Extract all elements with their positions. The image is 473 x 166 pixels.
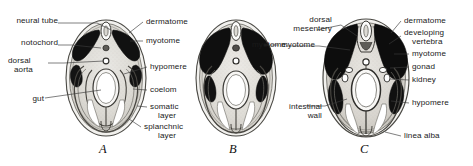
- panel-c-drawing: [323, 19, 409, 137]
- label-somatic-layer-line2: layer: [158, 111, 176, 120]
- panel-letter-a: A: [99, 142, 107, 157]
- label-dermatome-a: dermatome: [146, 17, 188, 26]
- label-kidney: kidney: [412, 75, 436, 84]
- anatomy-figure: neural tube notochord dorsal aorta gut d…: [0, 0, 473, 166]
- label-myotome-c-right: myotome: [412, 49, 446, 58]
- label-developing-vertebra-line2: vertebra: [412, 37, 443, 46]
- label-neural-tube: neural tube: [2, 16, 58, 25]
- label-somatic-layer-line1: somatic: [150, 102, 179, 111]
- label-linea-alba: linea alba: [404, 131, 440, 140]
- label-gut: gut: [2, 94, 44, 103]
- label-gonad: gonad: [412, 62, 435, 71]
- label-dorsal-aorta-line2: aorta: [14, 65, 60, 74]
- label-hypomere-a: hypomere: [150, 62, 187, 71]
- label-splanchnic-layer-line2: layer: [158, 131, 176, 140]
- panel-b-drawing: [196, 20, 276, 136]
- label-hypomere-c: hypomere: [412, 98, 449, 107]
- label-dorsal-aorta-line1: dorsal: [8, 56, 54, 65]
- label-dermatome-c: dermatome: [404, 16, 446, 25]
- panel-a-drawing: [66, 20, 146, 136]
- panel-letter-b: B: [229, 142, 237, 157]
- label-myotome-a: myotome: [146, 36, 180, 45]
- label-notochord: notochord: [2, 38, 58, 47]
- label-intestinal-wall-line1: intestinal: [282, 102, 322, 111]
- label-dorsal-mesentery-line2: mesentery: [282, 24, 332, 33]
- label-dorsal-mesentery-line1: dorsal: [286, 15, 332, 24]
- label-myotome-b: myotome: [281, 40, 315, 49]
- label-developing-vertebra-line1: developing: [404, 28, 444, 37]
- label-intestinal-wall-line2: wall: [282, 111, 322, 120]
- label-coelom: coelom: [150, 85, 177, 94]
- label-splanchnic-layer-line1: splanchnic: [144, 122, 183, 131]
- label-myotome-c-left: myotome: [250, 40, 286, 49]
- panel-letter-c: C: [360, 142, 368, 157]
